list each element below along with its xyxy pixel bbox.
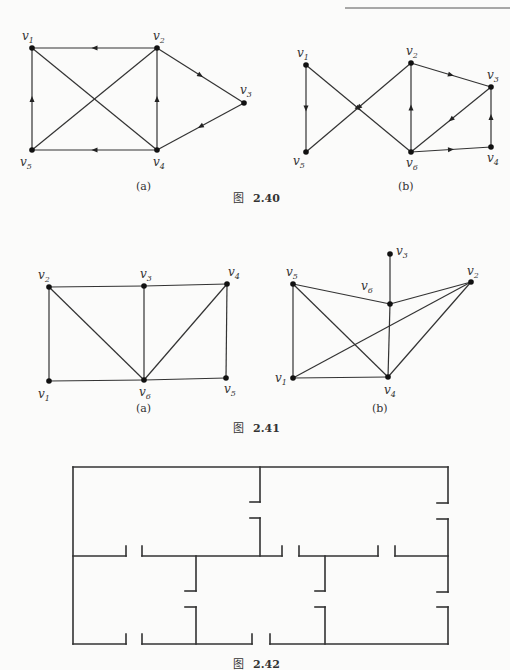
figure-2-42: 图2.42 [73, 467, 448, 670]
vertex-label: v5 [293, 154, 305, 170]
figure-2-40: v1v2v3v4v5(a)v1v2v3v4v5v6(b)图2.40 [20, 29, 499, 205]
graph-vertex [141, 283, 147, 289]
graph-edge [144, 378, 226, 380]
figure-page: v1v2v3v4v5(a)v1v2v3v4v5v6(b)图2.40v2v3v4v… [0, 0, 510, 670]
figure-caption-prefix: 图 [233, 658, 244, 670]
vertex-label: v2 [406, 44, 418, 60]
arrowhead-icon [92, 148, 98, 153]
vertex-label: v5 [286, 265, 298, 281]
graph-vertex [141, 377, 147, 383]
graph-vertex [29, 147, 35, 153]
arrowhead-icon [304, 106, 309, 112]
vertex-label: v4 [384, 383, 396, 399]
graph-edge [388, 304, 390, 377]
graph-vertex [387, 301, 393, 307]
figure-caption-prefix: 图 [233, 422, 244, 435]
graph-edge [144, 284, 227, 286]
subfigure-label: (b) [372, 402, 388, 415]
graph-vertex [290, 281, 296, 287]
floor-plan [73, 467, 448, 644]
graph-edge [226, 284, 227, 378]
vertex-label: v4 [153, 155, 165, 171]
vertex-label: v3 [396, 244, 408, 260]
graph-vertex [385, 374, 391, 380]
graph-vertex [29, 45, 35, 51]
graph-vertex [223, 375, 229, 381]
subfigure-a: v2v3v4v1v6v5(a) [38, 265, 240, 415]
subfigure-label: (a) [136, 402, 151, 415]
subfigure-b: v3v5v2v6v1v4(b) [275, 244, 479, 415]
graph-vertex [488, 84, 494, 90]
graph-vertex [290, 375, 296, 381]
graph-vertex [154, 147, 160, 153]
graph-vertex [241, 100, 247, 106]
figure-caption-prefix: 图 [233, 192, 244, 205]
graph-edge [390, 282, 471, 304]
graph-vertex [303, 62, 309, 68]
arrowhead-icon [197, 72, 203, 77]
graph-edge [49, 287, 144, 380]
graph-vertex [408, 149, 414, 155]
arrowhead-icon [489, 114, 494, 120]
graph-edge [293, 284, 390, 304]
graph-vertex [408, 60, 414, 66]
vertex-label: v1 [22, 29, 34, 45]
vertex-label: v2 [38, 268, 50, 284]
vertex-label: v2 [467, 264, 479, 280]
graph-edge [388, 282, 471, 377]
figure-caption-number: 2.41 [253, 422, 280, 435]
graph-vertex [46, 378, 52, 384]
arrowhead-icon [448, 147, 454, 152]
subfigure-a: v1v2v3v4v5(a) [20, 29, 252, 193]
figure-2-41: v2v3v4v1v6v5(a)v3v5v2v6v1v4(b)图2.41 [38, 244, 479, 435]
vertex-label: v5 [224, 382, 236, 398]
arrowhead-icon [30, 96, 35, 102]
graph-vertex [468, 279, 474, 285]
vertex-label: v4 [228, 265, 240, 281]
subfigure-label: (a) [136, 180, 151, 193]
figure-caption-number: 2.42 [253, 658, 280, 670]
vertex-label: v5 [20, 155, 32, 171]
graph-vertex [488, 144, 494, 150]
graph-vertex [46, 284, 52, 290]
vertex-label: v3 [140, 267, 152, 283]
vertex-label: v1 [297, 46, 309, 62]
graph-edge [293, 284, 388, 377]
graph-edge [293, 282, 471, 378]
arrowhead-icon [409, 105, 414, 111]
vertex-label: v6 [406, 156, 418, 172]
graph-edge [49, 286, 144, 287]
graph-vertex [154, 45, 160, 51]
arrowhead-icon [92, 46, 98, 51]
graph-edge [144, 284, 227, 380]
graph-vertex [303, 149, 309, 155]
vertex-label: v3 [240, 83, 252, 99]
graph-vertex [224, 281, 230, 287]
vertex-label: v4 [487, 151, 499, 167]
subfigure-label: (b) [398, 180, 414, 193]
arrowhead-icon [447, 72, 453, 77]
arrowhead-icon [155, 96, 160, 102]
vertex-label: v1 [38, 387, 50, 403]
graph-edge [49, 380, 144, 381]
vertex-label: v1 [275, 371, 287, 387]
vertex-label: v6 [139, 385, 151, 401]
vertex-label: v2 [153, 29, 165, 45]
figure-caption-number: 2.40 [253, 192, 280, 205]
vertex-label: v6 [361, 279, 373, 295]
graph-vertex [387, 251, 393, 257]
graph-edge [293, 377, 388, 378]
vertex-label: v3 [487, 68, 499, 84]
subfigure-b: v1v2v3v4v5v6(b) [293, 44, 499, 193]
